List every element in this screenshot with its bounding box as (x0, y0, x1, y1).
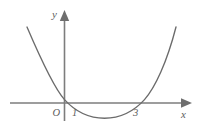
y-axis-label: y (51, 8, 57, 20)
figure-canvas: y x O 1 3 (0, 0, 199, 133)
x-tick-label-3: 3 (132, 107, 138, 118)
x-axis-arrow-icon (181, 98, 192, 108)
origin-label: O (53, 107, 61, 118)
parabola-curve (27, 27, 176, 118)
y-axis-arrow-icon (60, 10, 69, 21)
x-tick-label-1: 1 (72, 107, 77, 118)
x-axis-label: x (180, 108, 186, 120)
parabola-figure: y x O 1 3 (0, 0, 199, 133)
